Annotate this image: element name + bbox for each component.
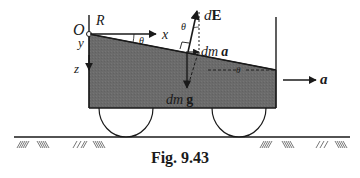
label-theta-top: θ	[139, 35, 144, 46]
label-R: R	[95, 13, 105, 28]
theta-arc-top	[133, 34, 134, 43]
ground-hatching	[17, 141, 347, 148]
label-dma: dma	[201, 44, 228, 59]
right-angle-marker	[180, 42, 189, 49]
left-wheel	[99, 108, 153, 137]
dE-vector	[188, 11, 197, 52]
label-theta-right: θ	[236, 65, 241, 75]
label-x: x	[161, 27, 169, 42]
figure-caption: Fig. 9.43	[0, 149, 360, 167]
label-dE: dE	[204, 7, 222, 23]
label-z: z	[73, 61, 79, 76]
label-y: y	[76, 35, 84, 50]
right-wheel	[212, 108, 266, 137]
label-dmg: dmg	[166, 92, 193, 107]
label-theta-vec: θ	[181, 21, 186, 32]
label-accel: a	[320, 71, 328, 87]
